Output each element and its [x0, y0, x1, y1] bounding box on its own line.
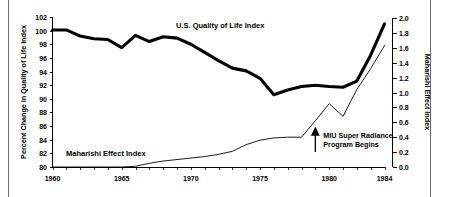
x-tick-label: 1980 [321, 175, 337, 182]
right-axis-ticks: 0.00.20.40.60.81.01.21.41.61.82.0 [393, 15, 409, 171]
right-tick-label: 0.0 [399, 164, 409, 171]
right-tick-label: 0.6 [399, 119, 409, 126]
x-tick-label: 1984 [377, 175, 393, 182]
dual-axis-line-chart: 80828486889092949698100102 0.00.20.40.60… [0, 0, 455, 197]
right-tick-label: 0.4 [399, 134, 409, 141]
annotation-line-2: Program Begins [323, 140, 379, 149]
annotation-miu-super-radiance: MIU Super Radiance Program Begins [312, 128, 393, 152]
right-tick-label: 1.0 [399, 90, 409, 97]
x-tick-label: 1960 [45, 175, 61, 182]
series-line-us-quality-of-life [53, 24, 385, 95]
right-tick-label: 2.0 [399, 15, 409, 22]
x-tick-label: 1965 [114, 175, 130, 182]
left-tick-label: 94 [39, 69, 47, 76]
right-tick-label: 1.6 [399, 45, 409, 52]
left-tick-label: 98 [39, 41, 47, 48]
left-tick-label: 82 [39, 150, 47, 157]
left-tick-label: 90 [39, 96, 47, 103]
left-tick-label: 100 [35, 28, 47, 35]
right-axis-title: Maharishi Effect Index [423, 54, 432, 130]
series-label-us-quality-of-life: U.S. Quality of Life Index [176, 21, 265, 30]
right-tick-label: 0.2 [399, 149, 409, 156]
x-tick-label: 1970 [183, 175, 199, 182]
series-label-maharishi-effect: Maharishi Effect Index [66, 149, 146, 158]
left-tick-label: 88 [39, 109, 47, 116]
left-tick-label: 92 [39, 82, 47, 89]
x-axis-ticks: 196019651970197519801984 [45, 167, 393, 182]
left-tick-label: 86 [39, 123, 47, 130]
annotation-arrow-head [312, 128, 319, 135]
x-tick-label: 1975 [252, 175, 268, 182]
right-tick-label: 1.2 [399, 75, 409, 82]
left-axis-title: Percent Change in Quality of Life Index [19, 25, 28, 159]
left-tick-label: 96 [39, 55, 47, 62]
right-tick-label: 1.8 [399, 30, 409, 37]
left-tick-label: 84 [39, 137, 47, 144]
right-tick-label: 1.4 [399, 60, 409, 67]
right-tick-label: 0.8 [399, 104, 409, 111]
figure-container: 80828486889092949698100102 0.00.20.40.60… [0, 0, 455, 197]
left-tick-label: 80 [39, 164, 47, 171]
left-tick-label: 102 [35, 14, 47, 21]
left-axis-ticks: 80828486889092949698100102 [35, 14, 52, 171]
annotation-line-1: MIU Super Radiance [323, 131, 393, 140]
